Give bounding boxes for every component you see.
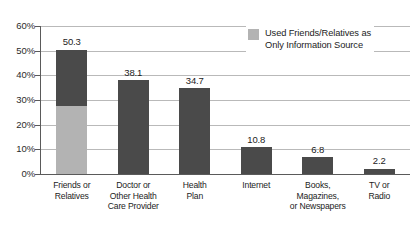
y-axis-tick <box>35 100 40 101</box>
y-axis-tick-label: 20% <box>2 120 35 130</box>
y-axis-tick-label: 40% <box>2 70 35 80</box>
x-axis-category-label: Health Plan <box>164 180 226 201</box>
y-axis-tick-label: 0% <box>2 169 35 179</box>
y-axis-tick-label: 10% <box>2 144 35 154</box>
legend-swatch-icon <box>248 29 259 40</box>
bar-segment-only-source <box>56 106 87 174</box>
bar-group: 38.1 <box>118 26 149 174</box>
x-axis-category-label: Internet <box>226 180 288 191</box>
x-axis-labels: Friends or RelativesDoctor or Other Heal… <box>41 180 410 233</box>
bar-value-label: 38.1 <box>124 68 142 78</box>
y-axis-tick <box>35 75 40 76</box>
y-axis-tick <box>35 26 40 27</box>
bar <box>302 157 333 174</box>
bar-value-label: 6.8 <box>311 145 324 155</box>
bar-group: 50.3 <box>56 26 87 174</box>
y-axis-tick-label: 30% <box>2 95 35 105</box>
x-axis-category-label: Books, Magazines, or Newspapers <box>287 180 349 212</box>
y-axis-tick <box>35 149 40 150</box>
bar <box>241 147 272 174</box>
x-axis-category-label: Doctor or Other Health Care Provider <box>103 180 165 212</box>
bar <box>179 88 210 174</box>
bar-group: 34.7 <box>179 26 210 174</box>
x-axis-baseline <box>41 174 410 175</box>
y-axis-tick <box>35 51 40 52</box>
bar-value-label: 2.2 <box>373 156 386 166</box>
bar-value-label: 10.8 <box>247 135 265 145</box>
bar <box>364 169 395 174</box>
bar-value-label: 34.7 <box>186 76 204 86</box>
y-axis-labels: 0%10%20%30%40%50%60% <box>0 0 35 233</box>
legend-label: Used Friends/Relatives as Only Informati… <box>265 28 371 51</box>
bar <box>118 80 149 174</box>
x-axis-category-label: Friends or Relatives <box>41 180 103 201</box>
y-axis-tick <box>35 125 40 126</box>
bar-chart: 0%10%20%30%40%50%60% 50.338.134.710.86.8… <box>0 0 415 233</box>
bar <box>56 50 87 174</box>
x-axis-category-label: TV or Radio <box>349 180 411 201</box>
y-axis-tick-label: 60% <box>2 21 35 31</box>
y-axis-tick-label: 50% <box>2 46 35 56</box>
chart-legend: Used Friends/Relatives as Only Informati… <box>246 26 374 54</box>
y-axis-tick <box>35 174 40 175</box>
bar-value-label: 50.3 <box>63 37 81 47</box>
